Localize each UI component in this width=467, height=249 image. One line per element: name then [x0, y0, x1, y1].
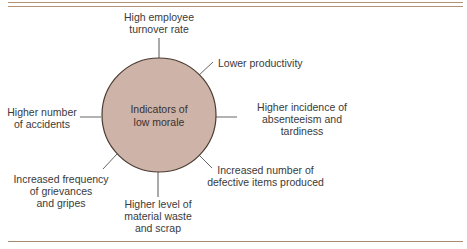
indicator-waste: Higher level of material waste and scrap [113, 198, 203, 234]
indicator-turnover: High employee turnover rate [104, 11, 214, 35]
indicator-turnover-line1: High employee [104, 11, 214, 23]
indicator-waste-line3: and scrap [113, 222, 203, 234]
indicator-accidents: Higher number of accidents [4, 106, 80, 130]
indicator-productivity: Lower productivity [218, 57, 303, 69]
indicator-defective: Increased number of defective items prod… [203, 164, 328, 188]
indicator-turnover-line2: turnover rate [104, 23, 214, 35]
indicator-waste-line1: Higher level of [113, 198, 203, 210]
indicator-absenteeism-line2: absenteeism and [237, 113, 367, 125]
indicator-defective-line1: Increased number of [203, 164, 328, 176]
center-label-line1: Indicators of [109, 103, 209, 116]
indicator-absenteeism-line3: tardiness [237, 125, 367, 137]
center-label-line2: low morale [109, 116, 209, 129]
connector-productivity [198, 62, 213, 76]
center-label: Indicators of low morale [109, 103, 209, 129]
indicator-productivity-line1: Lower productivity [218, 57, 303, 69]
indicator-absenteeism: Higher incidence of absenteeism and tard… [237, 101, 367, 137]
indicator-grievances-line3: and gripes [11, 197, 111, 209]
indicator-grievances-line2: of grievances [11, 185, 111, 197]
indicator-grievances: Increased frequency of grievances and gr… [11, 173, 111, 209]
indicator-defective-line2: defective items produced [203, 176, 328, 188]
indicator-accidents-line1: Higher number [4, 106, 80, 118]
connector-grievances [103, 154, 117, 169]
indicator-absenteeism-line1: Higher incidence of [237, 101, 367, 113]
indicator-grievances-line1: Increased frequency [11, 173, 111, 185]
indicator-accidents-line2: of accidents [4, 118, 80, 130]
indicator-waste-line2: material waste [113, 210, 203, 222]
